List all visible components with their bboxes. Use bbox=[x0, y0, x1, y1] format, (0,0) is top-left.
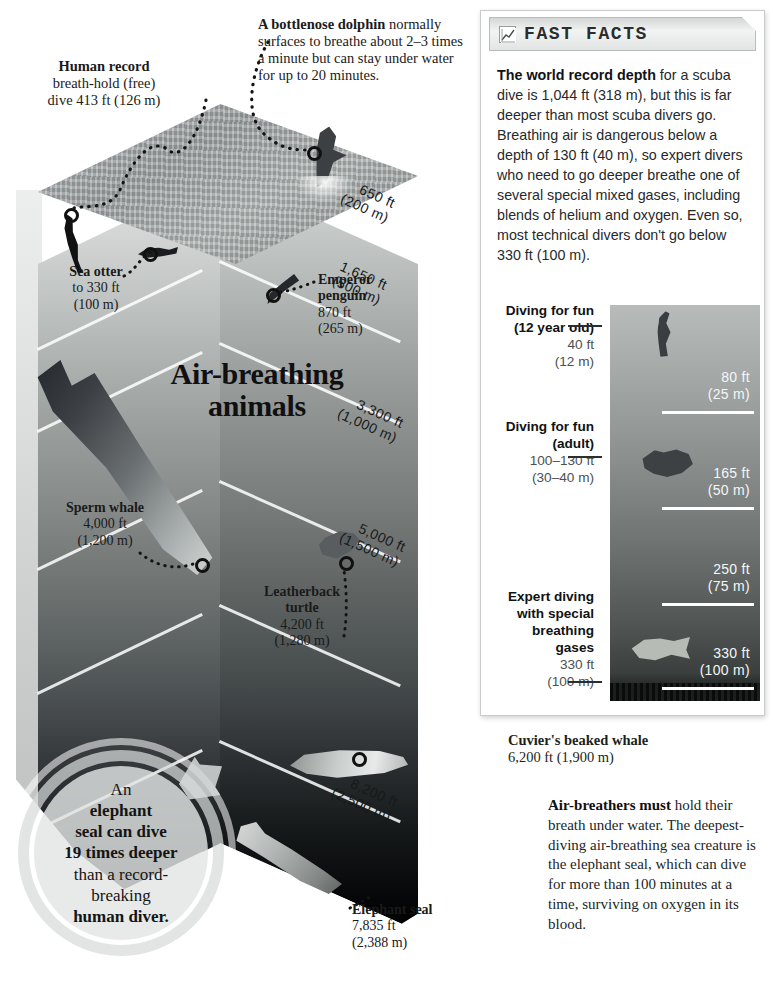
tick-80-ft: 80 ft bbox=[708, 369, 750, 386]
human-record-line2: breath-hold (free) bbox=[14, 75, 194, 92]
badge-line-1: An bbox=[64, 779, 177, 800]
tick-165-m: (50 m) bbox=[708, 482, 750, 499]
tick-250-ft: 250 ft bbox=[708, 561, 750, 578]
tick-330-m: (100 m) bbox=[700, 662, 750, 679]
fast-facts-lead: The world record depth bbox=[497, 67, 656, 83]
elephant-seal-depth-ft: 7,835 ft bbox=[352, 918, 482, 934]
dive-rule-165ft bbox=[662, 507, 754, 510]
dive-chart-water bbox=[610, 305, 760, 701]
dive-depth-chart: 80 ft (25 m) 165 ft (50 m) 250 ft (75 m)… bbox=[491, 301, 754, 705]
dive-tick-label-165ft: 165 ft (50 m) bbox=[708, 465, 750, 498]
fast-facts-title: FAST FACTS bbox=[524, 24, 648, 44]
cat1-depth-m: (30–40 m) bbox=[476, 470, 594, 487]
turtle-depth-ft: 4,200 ft bbox=[256, 617, 348, 633]
dolphin-title: A bottlenose dolphin bbox=[258, 16, 385, 32]
dive-rule-330ft bbox=[662, 687, 754, 690]
elephant-seal-fact-badge: An elephant seal can dive 19 times deepe… bbox=[6, 738, 236, 968]
sperm-whale-depth-m: (1,200 m) bbox=[34, 533, 176, 549]
cat2-label4: gases bbox=[476, 640, 594, 657]
cat1-label2: (adult) bbox=[476, 436, 594, 453]
badge-line-2: elephant bbox=[90, 801, 152, 820]
callout-elephant-seal: Elephant seal 7,835 ft (2,388 m) bbox=[352, 902, 482, 951]
dive-pointer-expert bbox=[568, 681, 602, 683]
badge-line-5: than a record- bbox=[64, 864, 177, 885]
emperor-penguin-marker bbox=[266, 288, 281, 303]
penguin-depth-ft: 870 ft bbox=[318, 305, 428, 321]
human-record-marker bbox=[64, 208, 79, 223]
badge-line-3: seal can dive bbox=[75, 822, 167, 841]
airbreathers-rest: hold their breath under water. The deepe… bbox=[548, 797, 756, 932]
dive-tick-label-330ft: 330 ft (100 m) bbox=[700, 645, 750, 678]
badge-text: An elephant seal can dive 19 times deepe… bbox=[42, 774, 200, 932]
callout-cuvier-beaked-whale: Cuvier's beaked whale 6,200 ft (1,900 m) bbox=[508, 732, 748, 767]
callout-human-record: Human record breath-hold (free) dive 413… bbox=[14, 58, 194, 109]
dive-rule-250ft bbox=[662, 603, 754, 606]
dive-pointer-adult bbox=[568, 456, 602, 458]
cat2-label2: with special bbox=[476, 606, 594, 623]
badge-line-4: 19 times deeper bbox=[64, 843, 177, 862]
sperm-whale-marker bbox=[195, 558, 210, 573]
tick-165-ft: 165 ft bbox=[708, 465, 750, 482]
cat0-depth-ft: 40 ft bbox=[476, 337, 594, 354]
dive-category-expert: Expert diving with special breathing gas… bbox=[476, 589, 594, 691]
elephant-seal-title: Elephant seal bbox=[352, 902, 482, 918]
fast-facts-rest: for a scuba dive is 1,044 ft (318 m), bu… bbox=[497, 67, 743, 263]
dive-chart-seafloor bbox=[610, 683, 760, 701]
cat0-depth-m: (12 m) bbox=[476, 354, 594, 371]
fast-facts-body: The world record depth for a scuba dive … bbox=[481, 51, 764, 271]
sperm-whale-title: Sperm whale bbox=[34, 500, 176, 516]
dive-tick-label-80ft: 80 ft (25 m) bbox=[708, 369, 750, 402]
dive-category-12-year-old: Diving for fun (12 year old) 40 ft (12 m… bbox=[476, 303, 594, 371]
sperm-whale-depth-ft: 4,000 ft bbox=[34, 516, 176, 532]
cat0-label2: (12 year old) bbox=[476, 320, 594, 337]
human-record-title: Human record bbox=[14, 58, 194, 75]
callout-sea-otter: Sea otter to 330 ft (100 m) bbox=[36, 264, 156, 313]
human-record-line3: dive 413 ft (126 m) bbox=[14, 92, 194, 109]
diver-12-year-old-silhouette bbox=[645, 309, 681, 359]
penguin-depth-m: (265 m) bbox=[318, 321, 428, 337]
dive-tick-label-250ft: 250 ft (75 m) bbox=[708, 561, 750, 594]
cuvier-whale-marker bbox=[352, 752, 367, 767]
dive-pointer-12-year-old bbox=[568, 325, 602, 327]
fast-facts-panel: FAST FACTS The world record depth for a … bbox=[480, 10, 765, 716]
elephant-seal-depth-m: (2,388 m) bbox=[352, 935, 482, 951]
cat1-label1: Diving for fun bbox=[476, 419, 594, 436]
sea-otter-marker bbox=[143, 247, 158, 262]
tick-330-ft: 330 ft bbox=[700, 645, 750, 662]
cuvier-title: Cuvier's beaked whale bbox=[508, 732, 748, 749]
dolphin-depth-marker bbox=[307, 146, 322, 161]
callout-leatherback-turtle: Leatherback turtle 4,200 ft (1,280 m) bbox=[256, 584, 348, 650]
turtle-title-2: turtle bbox=[256, 600, 348, 616]
tick-80-m: (25 m) bbox=[708, 386, 750, 403]
turtle-title-1: Leatherback bbox=[256, 584, 348, 600]
sea-otter-title: Sea otter bbox=[36, 264, 156, 280]
leatherback-turtle-marker bbox=[339, 556, 354, 571]
fast-facts-header: FAST FACTS bbox=[489, 17, 756, 51]
dive-category-adult: Diving for fun (adult) 100–130 ft (30–40… bbox=[476, 419, 594, 487]
tick-250-m: (75 m) bbox=[708, 578, 750, 595]
diver-technical-silhouette bbox=[628, 635, 690, 669]
cat2-label3: breathing bbox=[476, 623, 594, 640]
cat0-label1: Diving for fun bbox=[476, 303, 594, 320]
page-title: Air-breathing animals bbox=[142, 358, 372, 421]
cat2-depth-ft: 330 ft bbox=[476, 657, 594, 674]
cat2-label1: Expert diving bbox=[476, 589, 594, 606]
callout-sperm-whale: Sperm whale 4,000 ft (1,200 m) bbox=[34, 500, 176, 549]
badge-line-6: breaking bbox=[64, 885, 177, 906]
badge-line-7: human diver. bbox=[73, 907, 169, 926]
airbreathers-lead: Air-breathers must bbox=[548, 797, 671, 813]
diver-adult-silhouette bbox=[638, 442, 696, 487]
callout-bottlenose-dolphin: A bottlenose dolphin normally surfaces t… bbox=[258, 16, 464, 84]
page-title-line1: Air-breathing bbox=[142, 358, 372, 390]
dive-rule-80ft bbox=[662, 411, 754, 414]
ocean-depth-infographic: Human record breath-hold (free) dive 413… bbox=[0, 0, 470, 987]
cuvier-depth: 6,200 ft (1,900 m) bbox=[508, 749, 748, 766]
airbreathers-paragraph: Air-breathers must hold their breath und… bbox=[548, 796, 756, 935]
sea-otter-depth-ft: to 330 ft bbox=[36, 280, 156, 296]
chart-icon bbox=[499, 26, 516, 43]
sea-otter-depth-m: (100 m) bbox=[36, 297, 156, 313]
turtle-depth-m: (1,280 m) bbox=[256, 633, 348, 649]
